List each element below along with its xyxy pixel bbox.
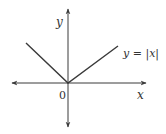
abs-value-curve	[26, 43, 118, 83]
origin-label: 0	[59, 89, 66, 102]
abs-value-graph: y x 0 y = |x|	[0, 0, 166, 134]
curve-label: y = |x|	[122, 47, 159, 61]
x-axis-label: x	[137, 88, 144, 102]
y-axis-label: y	[55, 15, 63, 29]
